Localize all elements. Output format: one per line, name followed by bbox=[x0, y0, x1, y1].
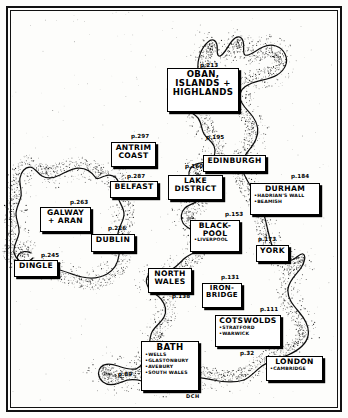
map-label-london[interactable]: LONDONCAMBRIDGE bbox=[266, 356, 323, 381]
map-label-title: DINGLE bbox=[18, 262, 54, 270]
map-label-dublin[interactable]: DUBLIN bbox=[91, 234, 135, 252]
map-label-sublist: CAMBRIDGE bbox=[270, 366, 319, 372]
page-reference-northwales[interactable]: p.138 bbox=[172, 293, 190, 299]
map-label-title: LONDON bbox=[270, 358, 319, 366]
map-label-title: ANTRIM COAST bbox=[115, 144, 152, 159]
map-label-northwales[interactable]: NORTH WALES bbox=[148, 268, 192, 293]
map-label-subitem: SOUTH WALES bbox=[145, 370, 195, 376]
map-label-belfast[interactable]: BELFAST bbox=[110, 181, 158, 198]
map-label-sublist: LIVERPOOL bbox=[194, 237, 236, 243]
page-reference-bath[interactable]: p.89 bbox=[118, 371, 132, 377]
map-label-title: LAKE DISTRICT bbox=[172, 177, 219, 192]
artist-signature: DCH bbox=[186, 393, 200, 399]
map-label-edinburgh[interactable]: EDINBURGH bbox=[203, 155, 266, 172]
map-label-title: COTSWOLDS bbox=[219, 317, 277, 325]
map-label-york[interactable]: YORK bbox=[256, 245, 289, 262]
map-label-antrim[interactable]: ANTRIM COAST bbox=[111, 142, 156, 167]
map-label-title: NORTH WALES bbox=[152, 270, 188, 285]
map-label-durham[interactable]: DURHAMHADRIAN'S WALLBEAMISH bbox=[250, 183, 320, 215]
map-label-sublist: WELLSGLASTONBURYAVEBURYSOUTH WALES bbox=[145, 352, 195, 376]
page-reference-oban[interactable]: p.213 bbox=[200, 62, 218, 68]
page-reference-durham[interactable]: p.184 bbox=[291, 173, 309, 179]
map-label-subitem: BEAMISH bbox=[254, 199, 316, 205]
map-label-sublist: HADRIAN'S WALLBEAMISH bbox=[254, 193, 316, 205]
page-reference-dingle[interactable]: p.245 bbox=[41, 252, 59, 258]
map-label-title: IRON- BRIDGE bbox=[206, 285, 238, 299]
hand-drawn-map: OBAN, ISLANDS + HIGHLANDSANTRIM COASTEDI… bbox=[0, 0, 348, 418]
page-reference-antrim[interactable]: p.297 bbox=[131, 133, 149, 139]
map-label-ironbridge[interactable]: IRON- BRIDGE bbox=[202, 283, 242, 308]
map-label-title: BELFAST bbox=[114, 183, 154, 191]
page-reference-dublin[interactable]: p.226 bbox=[108, 225, 126, 231]
page-reference-belfast[interactable]: p.287 bbox=[127, 173, 145, 179]
page-reference-ironbridge[interactable]: p.131 bbox=[221, 274, 239, 280]
map-label-cotswolds[interactable]: COTSWOLDSSTRATFORDWARWICK bbox=[215, 315, 281, 347]
map-label-dingle[interactable]: DINGLE bbox=[14, 260, 58, 277]
map-label-title: YORK bbox=[260, 247, 285, 255]
page-reference-lakedistrict[interactable]: p.160 bbox=[185, 163, 203, 169]
page-reference-edinburgh[interactable]: p.195 bbox=[206, 134, 224, 140]
page-reference-blackpool[interactable]: p.153 bbox=[225, 211, 243, 217]
map-label-blackpool[interactable]: BLACK- POOLLIVERPOOL bbox=[190, 220, 240, 252]
map-label-title: BATH bbox=[145, 343, 195, 352]
map-label-bath[interactable]: BATHWELLSGLASTONBURYAVEBURYSOUTH WALES bbox=[141, 341, 199, 391]
map-label-subitem: CAMBRIDGE bbox=[270, 366, 319, 372]
map-label-lakedistrict[interactable]: LAKE DISTRICT bbox=[168, 175, 223, 200]
map-label-galway[interactable]: GALWAY + ARAN bbox=[40, 207, 91, 232]
page-reference-galway[interactable]: p.263 bbox=[70, 199, 88, 205]
map-label-subitem: LIVERPOOL bbox=[194, 237, 236, 243]
map-label-title: DURHAM bbox=[254, 185, 316, 193]
map-label-title: GALWAY + ARAN bbox=[44, 209, 87, 224]
map-label-subitem: GLASTONBURY bbox=[145, 358, 195, 364]
page-reference-london[interactable]: p.32 bbox=[240, 350, 254, 356]
map-label-title: OBAN, ISLANDS + HIGHLANDS bbox=[171, 70, 235, 96]
map-label-title: EDINBURGH bbox=[207, 157, 262, 165]
map-label-oban[interactable]: OBAN, ISLANDS + HIGHLANDS bbox=[167, 68, 239, 112]
map-label-title: BLACK- POOL bbox=[194, 222, 236, 237]
page-reference-york[interactable]: p.173 bbox=[258, 236, 276, 242]
map-label-title: DUBLIN bbox=[95, 236, 131, 244]
map-label-subitem: WARWICK bbox=[219, 331, 277, 337]
page-reference-cotswolds[interactable]: p.111 bbox=[260, 306, 278, 312]
map-label-sublist: STRATFORDWARWICK bbox=[219, 325, 277, 337]
